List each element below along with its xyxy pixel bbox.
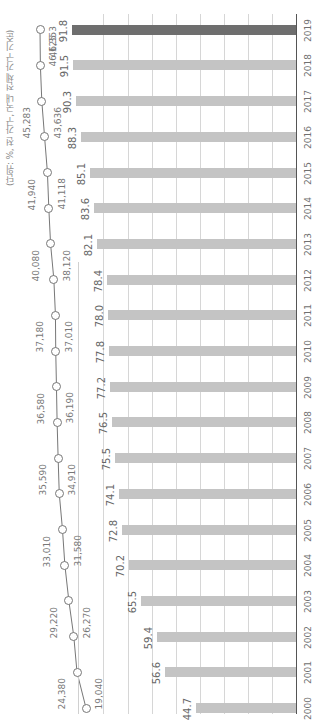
bar-value-label: 72.8 — [108, 520, 119, 542]
bar-2007 — [115, 453, 296, 463]
bar-value-label: 74.1 — [105, 484, 116, 506]
bar-2013 — [97, 239, 296, 249]
household-value-label: 36,580 — [36, 393, 46, 425]
gridline — [224, 14, 225, 714]
bar-2008 — [112, 417, 296, 427]
bar-2002 — [157, 632, 296, 642]
year-label: 2010 — [303, 340, 313, 363]
household-value-label: 34,910 — [67, 464, 77, 496]
year-label: 2006 — [303, 483, 313, 506]
household-value-label: 36,190 — [65, 392, 75, 424]
bar-value-label: 88.3 — [67, 127, 78, 149]
year-label: 2016 — [303, 126, 313, 149]
household-value-label: 38,120 — [62, 250, 72, 282]
bar-value-label: 75.5 — [101, 448, 112, 470]
year-label: 2011 — [303, 304, 313, 327]
bar-value-label: 76.5 — [98, 412, 109, 434]
household-value-label: 29,220 — [49, 607, 59, 639]
year-label: 2015 — [303, 162, 313, 185]
bar-value-label: 85.1 — [76, 163, 87, 185]
bar-2012 — [107, 275, 296, 285]
line-point — [54, 454, 63, 463]
gridline — [200, 14, 201, 714]
bar-value-label: 82.1 — [83, 234, 94, 256]
household-value-label: 37,180 — [35, 321, 45, 353]
year-label: 2001 — [303, 661, 313, 684]
line-point — [82, 704, 91, 713]
household-value-label: 45,283 — [22, 107, 32, 139]
bar-value-label: 44.7 — [182, 698, 193, 720]
bar-2005 — [122, 525, 296, 535]
year-label: 2012 — [303, 269, 313, 292]
bar-value-label: 70.2 — [115, 555, 126, 577]
household-value-label: 46,353 — [48, 26, 58, 58]
gridline — [152, 14, 153, 714]
bar-2001 — [165, 667, 296, 677]
household-value-label: 40,080 — [31, 250, 41, 282]
gridline — [78, 262, 79, 714]
bar-2006 — [119, 489, 296, 499]
bar-2011 — [108, 310, 296, 320]
bar-value-label: 77.8 — [95, 341, 106, 363]
line-point — [58, 525, 67, 534]
bar-value-label: 56.6 — [151, 662, 162, 684]
year-label: 2018 — [303, 54, 313, 77]
household-value-label: 37,010 — [64, 321, 74, 353]
bar-2003 — [141, 596, 296, 606]
gridline — [103, 14, 104, 714]
bar-2015 — [90, 168, 296, 178]
year-label: 2004 — [303, 554, 313, 577]
bar-value-label: 91.5 — [59, 55, 70, 77]
household-value-label: 31,580 — [73, 535, 83, 567]
bar-2017 — [76, 96, 296, 106]
year-label: 2008 — [303, 411, 313, 434]
bar-value-label: 78.0 — [94, 305, 105, 327]
household-value-label: 33,010 — [42, 536, 52, 568]
line-point — [36, 61, 45, 70]
chart-area: (단위: %, 천 가구, 국내 전체 가구 기준) 44.7200019,04… — [0, 0, 335, 726]
bar-2004 — [129, 560, 296, 570]
bar-value-label: 77.2 — [96, 377, 107, 399]
bar-2018 — [73, 60, 296, 70]
line-point — [43, 168, 52, 177]
bar-value-label: 78.4 — [93, 270, 104, 292]
bar-2009 — [110, 382, 296, 392]
line-point — [44, 204, 53, 213]
gridline — [176, 14, 177, 714]
line-point — [37, 97, 46, 106]
line-point — [73, 668, 82, 677]
source-note — [322, 330, 330, 630]
household-value-label: 41,940 — [27, 179, 37, 211]
bar-2014 — [94, 203, 296, 213]
bar-2010 — [109, 346, 296, 356]
year-label: 2002 — [303, 626, 313, 649]
bar-2016 — [81, 132, 296, 142]
year-label: 2000 — [303, 697, 313, 720]
axis-baseline — [296, 14, 297, 714]
year-label: 2007 — [303, 447, 313, 470]
bar-value-label: 91.8 — [58, 20, 69, 42]
household-value-label: 35,590 — [38, 464, 48, 496]
year-label: 2019 — [303, 19, 313, 42]
bar-value-label: 65.5 — [127, 591, 138, 613]
gridline — [248, 14, 249, 714]
household-value-label: 26,270 — [82, 607, 92, 639]
bar-value-label: 83.6 — [80, 198, 91, 220]
bar-2000 — [196, 703, 296, 713]
year-label: 2005 — [303, 519, 313, 542]
bar-value-label: 90.3 — [62, 91, 73, 113]
bar-value-label: 59.4 — [143, 627, 154, 649]
bar-2019 — [72, 25, 296, 35]
year-label: 2017 — [303, 90, 313, 113]
line-point — [51, 311, 60, 320]
year-label: 2009 — [303, 376, 313, 399]
household-value-label: 41,118 — [57, 178, 67, 210]
household-value-label: 24,380 — [57, 678, 67, 710]
line-point — [36, 25, 45, 34]
year-label: 2003 — [303, 590, 313, 613]
line-point — [51, 347, 60, 356]
year-label: 2014 — [303, 197, 313, 220]
household-value-label: 19,040 — [94, 678, 104, 710]
gridline — [272, 14, 273, 714]
year-label: 2013 — [303, 233, 313, 256]
